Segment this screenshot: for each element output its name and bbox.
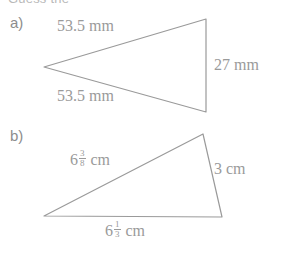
worksheet-page: Guess the a) 53.5 mm 53.5 mm 27 mm b) 6 … [0, 0, 281, 257]
mixed-number-b-bottom: 6 1 3 cm [105, 221, 145, 240]
triangle-b-outline [44, 134, 222, 217]
numerator: 3 [79, 149, 86, 158]
unit: cm [126, 222, 146, 240]
unit: cm [91, 151, 111, 169]
whole-part: 6 [105, 222, 113, 240]
fraction: 1 3 [114, 220, 121, 239]
figure-b-triangle [0, 0, 281, 257]
dim-b-bottom-side: 6 1 3 cm [105, 221, 145, 240]
whole-part: 6 [70, 151, 78, 169]
denominator: 8 [79, 159, 86, 168]
fraction: 3 8 [79, 149, 86, 168]
mixed-number-b-upper: 6 3 8 cm [70, 150, 110, 169]
dim-b-upper-side: 6 3 8 cm [70, 150, 110, 169]
dim-b-right-side: 3 cm [214, 160, 246, 178]
denominator: 3 [114, 230, 121, 239]
numerator: 1 [114, 220, 121, 229]
